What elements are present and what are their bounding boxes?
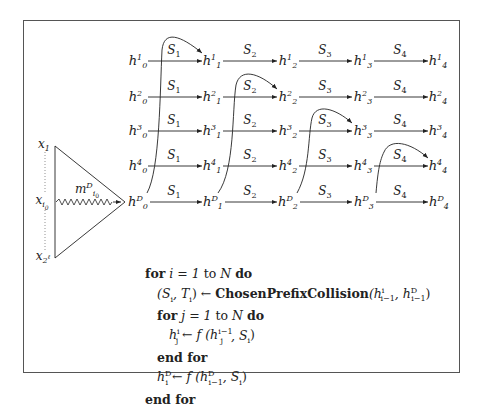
node-h0-4: h40: [129, 159, 148, 176]
edge-label-s2: S2: [243, 113, 256, 129]
edge-label-s1: S1: [167, 43, 180, 59]
algo-line-2: (Si, Ti) ← ChosenPrefixCollision(hii−1, …: [145, 283, 430, 308]
node-h4-D: hD4: [429, 195, 449, 212]
edge-label-s4: S4: [393, 79, 406, 95]
edge-label-s1: S1: [167, 148, 180, 164]
node-h3-1: h13: [354, 54, 373, 71]
algorithm-block: for i = 1 to N do (Si, Ti) ← ChosenPrefi…: [145, 266, 430, 408]
node-h3-4: h43: [354, 159, 373, 176]
edge-label-s1: S1: [167, 79, 180, 95]
node-h3-3: h33: [354, 124, 373, 141]
edge-label-s2: S2: [243, 79, 256, 95]
node-h1-1: h11: [203, 54, 222, 71]
input-label-x2l: x2ℓ: [36, 249, 50, 265]
node-h0-3: h30: [129, 124, 148, 141]
edge-label-s4: S4: [393, 148, 406, 164]
node-h2-1: h12: [279, 54, 298, 71]
node-h2-4: h42: [279, 159, 298, 176]
algo-line-1: for i = 1 to N do: [145, 266, 430, 283]
edge-label-s3: S3: [318, 148, 331, 164]
edge-label-s2: S2: [243, 148, 256, 164]
node-h1-3: h31: [203, 124, 222, 141]
edge-label-s3: S3: [318, 43, 331, 59]
node-h4-1: h14: [429, 54, 448, 71]
edge-label-s3: S3: [318, 113, 331, 129]
message-label: mDi0: [75, 181, 99, 200]
node-h4-4: h44: [429, 159, 448, 176]
node-h4-2: h24: [429, 90, 448, 107]
edge-label-s1: S1: [167, 184, 180, 200]
node-h2-3: h32: [279, 124, 298, 141]
input-label-x1: x1: [38, 137, 50, 153]
edge-label-s2: S2: [243, 184, 256, 200]
edge-label-s2: S2: [243, 43, 256, 59]
node-h1-4: h41: [203, 159, 222, 176]
algo-line-4: hij ← f (hi−1j, Si): [145, 324, 430, 349]
algo-line-6: hDi ← f (hDi−1, Si): [145, 366, 430, 391]
node-h3-D: hD3: [354, 195, 374, 212]
input-label-xi0: xi0: [35, 193, 48, 211]
node-h1-2: h21: [203, 90, 222, 107]
node-h0-1: h10: [129, 54, 148, 71]
algo-line-5: end for: [145, 350, 430, 367]
node-h1-D: hD1: [203, 195, 223, 212]
edge-label-s3: S3: [318, 184, 331, 200]
node-h2-2: h22: [279, 90, 298, 107]
input-triangle: [45, 146, 125, 258]
edge-label-s3: S3: [318, 79, 331, 95]
node-h0-2: h20: [129, 90, 148, 107]
algo-line-3: for j = 1 to N do: [145, 308, 430, 325]
edge-label-s4: S4: [393, 184, 406, 200]
node-h0-D: hD0: [128, 195, 148, 212]
node-h4-3: h34: [429, 124, 448, 141]
algo-line-7: end for: [145, 392, 430, 408]
node-h3-2: h23: [354, 90, 373, 107]
edge-label-s4: S4: [393, 43, 406, 59]
node-h2-D: hD2: [278, 195, 298, 212]
edge-label-s1: S1: [167, 113, 180, 129]
edge-label-s4: S4: [393, 113, 406, 129]
